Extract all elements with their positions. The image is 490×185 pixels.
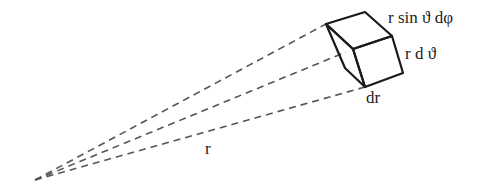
box-top-face (326, 12, 392, 49)
label-r: r (205, 140, 211, 157)
radial-line-bottom (35, 87, 365, 180)
label-dr: dr (366, 89, 380, 106)
label-r-dtheta: r d ϑ (405, 45, 436, 62)
radial-line-middle (35, 52, 346, 180)
box-left-face (326, 24, 365, 87)
radial-dashed-lines (35, 24, 365, 180)
radial-line-top (35, 24, 326, 180)
diagram-canvas (0, 0, 490, 185)
label-r-sin-theta-dphi: r sin ϑ dφ (388, 9, 453, 26)
box-front-face (353, 36, 403, 87)
